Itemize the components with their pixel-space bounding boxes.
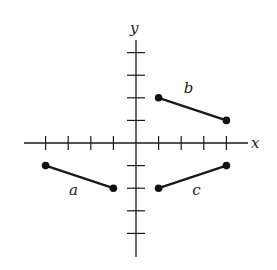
segment-a: a <box>42 162 117 199</box>
segment-label: c <box>192 181 201 199</box>
segment-label: a <box>69 181 78 199</box>
endpoint-dot <box>42 162 50 170</box>
segment-c: c <box>155 162 230 199</box>
segment-label: b <box>184 79 194 97</box>
y-axis-label: y <box>129 19 139 37</box>
segment-b: b <box>155 79 230 124</box>
segment-line <box>159 98 227 121</box>
endpoint-dot <box>223 117 231 125</box>
endpoint-dot <box>155 94 163 102</box>
coordinate-plane: x y abc <box>0 0 277 270</box>
segment-line <box>46 166 114 189</box>
x-axis-label: x <box>251 134 260 152</box>
endpoint-dot <box>155 184 163 192</box>
endpoint-dot <box>223 162 231 170</box>
endpoint-dot <box>110 184 118 192</box>
